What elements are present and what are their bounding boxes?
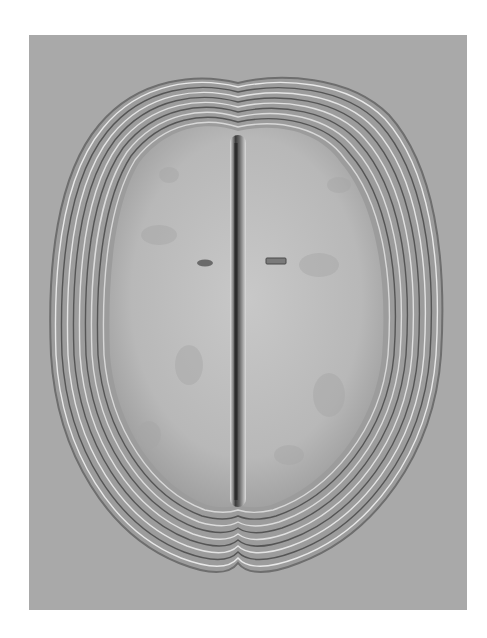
shield-artifact: [29, 35, 467, 610]
central-ridge: [230, 135, 246, 507]
photograph: [29, 35, 467, 610]
shield-inner-body: [109, 126, 383, 507]
